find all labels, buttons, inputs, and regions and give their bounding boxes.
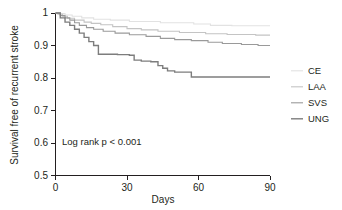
x-tick-label: 0 [53, 182, 59, 193]
y-tick-label: 0.6 [34, 137, 48, 148]
x-axis-ticks: 0306090 [53, 176, 276, 194]
survival-curve-laa [56, 13, 271, 35]
log-rank-annotation: Log rank p < 0.001 [62, 136, 142, 147]
legend-label-ung: UNG [308, 113, 329, 124]
legend-label-laa: LAA [308, 81, 327, 92]
y-tick-label: 0.9 [34, 40, 48, 51]
chart-legend: CELAASVSUNG [291, 65, 329, 124]
survival-chart-figure: Survival free of recurrent stroke Days 0… [0, 0, 342, 210]
y-tick-label: 0.5 [34, 170, 48, 181]
x-tick-label: 60 [193, 182, 205, 193]
survival-curves-group [56, 13, 271, 77]
x-tick-label: 90 [264, 182, 276, 193]
x-axis-title: Days [152, 194, 175, 205]
y-axis-title: Survival free of recurrent stroke [9, 25, 20, 165]
x-tick-label: 30 [121, 182, 133, 193]
kaplan-meier-plot: Survival free of recurrent stroke Days 0… [0, 0, 342, 210]
y-axis-ticks: 0.50.60.70.80.91 [34, 7, 55, 181]
y-tick-label: 0.7 [34, 105, 48, 116]
y-tick-label: 1 [42, 7, 48, 18]
y-tick-label: 0.8 [34, 72, 48, 83]
survival-curve-ce [56, 13, 271, 26]
legend-label-svs: SVS [308, 97, 327, 108]
legend-label-ce: CE [308, 65, 321, 76]
